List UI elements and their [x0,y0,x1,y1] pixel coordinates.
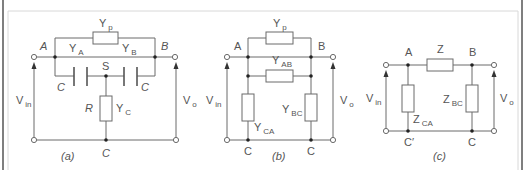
circuit-label: YA [69,42,84,57]
junction-node-icon [153,55,157,59]
arrow-up-icon [384,70,389,77]
YBC-admittance-icon [305,94,317,121]
R-resistor-icon [100,96,112,121]
right-capacitor-icon [124,67,137,86]
circuit-label: S [102,60,109,72]
circuit-panel-a: YpABYAYBSCCRYCVinVoC(a) [16,17,197,162]
panel-caption: (b) [272,150,286,162]
circuit-panel-b: YpABYABYBCYCAVinVoCC(b) [206,17,354,162]
circuit-label: A [39,40,47,52]
circuit-label: Vin [206,94,222,109]
circuit-label: Vo [183,94,197,109]
junction-node-icon [309,74,313,78]
circuit-label: Vin [366,92,382,107]
arrow-up-icon [225,62,230,69]
junction-node-icon [53,55,57,59]
circuit-label: B [469,46,476,58]
figure-frame [8,11,518,170]
circuit-label: A [234,40,242,52]
terminal-icon [173,137,178,142]
Yp-admittance-icon [93,32,118,44]
arrow-up-icon [32,62,37,69]
circuit-label: Yp [273,17,287,32]
circuit-figure: YpABYAYBSCCRYCVinVoC(a)YpABYABYBCYCAVinV… [0,0,525,170]
junction-node-icon [470,129,474,133]
circuit-label: YB [122,42,137,57]
circuit-label: ZBC [443,93,463,108]
junction-node-icon [246,55,250,59]
Z-impedance-icon [427,59,453,71]
junction-node-icon [246,74,250,78]
terminal-icon [491,62,496,67]
junction-node-icon [104,74,108,78]
terminal-icon [224,137,229,142]
circuit-label: C [102,147,110,159]
circuit-label: Z [437,43,444,55]
circuit-label: C [307,145,315,157]
circuit-label: YAB [272,54,292,69]
terminal-icon [330,137,335,142]
circuit-panels: YpABYAYBSCCRYCVinVoC(a)YpABYABYBCYCAVinV… [16,17,514,162]
junction-node-icon [406,63,410,67]
Yp-admittance-icon [266,32,293,44]
left-capacitor-icon [74,67,87,86]
terminal-icon [383,128,388,133]
arrow-up-icon [492,70,497,77]
junction-node-icon [309,138,313,142]
YCA-admittance-icon [242,94,254,121]
terminal-icon [31,137,36,142]
circuit-label: Vo [340,94,354,109]
circuit-label: Vo [500,92,514,107]
circuit-label: YC [116,102,131,117]
panel-caption: (a) [61,150,75,162]
circuit-label: C [468,136,476,148]
circuit-label: C [57,81,65,93]
circuit-label: Yp [99,17,113,32]
circuit-label: C [244,145,252,157]
circuit-label: YBC [282,103,303,118]
circuit-label: B [161,40,168,52]
terminal-icon [172,54,177,59]
junction-node-icon [470,63,474,67]
terminal-icon [330,54,335,59]
circuit-label: Vin [16,94,32,109]
circuit-label: YCA [254,121,275,136]
circuit-label: ZCA [413,113,434,128]
circuit-label: A [405,46,413,58]
circuit-label: C′ [404,136,414,148]
junction-node-icon [246,138,250,142]
ZBC-impedance-icon [466,85,478,112]
junction-node-icon [309,55,313,59]
terminal-icon [224,54,229,59]
ZCA-impedance-icon [402,85,414,112]
circuit-label: R [85,102,93,114]
circuit-label: B [318,40,325,52]
circuit-label: C [141,81,149,93]
circuit-panel-c: AZBZBCZCAVinVoC′C(c) [366,43,514,162]
junction-node-icon [406,129,410,133]
arrow-up-icon [331,62,336,69]
terminal-icon [491,128,496,133]
YAB-admittance-icon [266,70,293,82]
terminal-icon [383,62,388,67]
panel-caption: (c) [433,150,446,162]
terminal-icon [31,54,36,59]
arrow-up-icon [174,62,179,69]
junction-node-icon [104,138,108,142]
